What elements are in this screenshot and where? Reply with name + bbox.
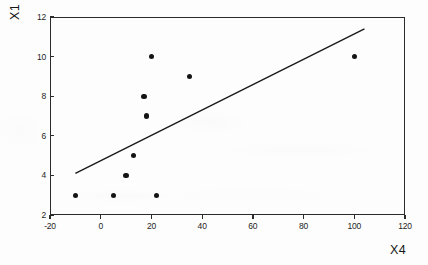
x-axis-tick <box>404 215 405 219</box>
x-axis-tick-label: 60 <box>238 221 268 231</box>
x-axis-tick <box>252 215 253 219</box>
x-axis-tick-label: 120 <box>390 221 420 231</box>
y-axis-title: X1 <box>8 4 22 20</box>
data-point <box>149 54 154 59</box>
x-axis-tick-label: 80 <box>289 221 319 231</box>
x-axis-tick <box>354 215 355 219</box>
data-point <box>111 193 116 198</box>
data-point <box>352 54 357 59</box>
x-axis-tick <box>49 215 50 219</box>
data-point <box>131 153 136 158</box>
y-axis-tick-label: 12 <box>28 12 46 22</box>
data-point <box>154 193 159 198</box>
x-axis-tick-label: 0 <box>86 221 116 231</box>
plot-area <box>50 17 405 215</box>
y-axis-tick-label: 2 <box>28 210 46 220</box>
x-axis-tick-label: -20 <box>35 221 65 231</box>
data-point <box>141 94 146 99</box>
data-point <box>73 193 78 198</box>
x-axis-tick <box>202 215 203 219</box>
y-axis-tick-label: 6 <box>28 131 46 141</box>
x-axis-tick-label: 20 <box>136 221 166 231</box>
y-axis-tick-label: 10 <box>28 52 46 62</box>
y-axis-tick-label: 8 <box>28 91 46 101</box>
x-axis-tick <box>303 215 304 219</box>
scatterplot-screenshot: X1 X4 24681012 -20020406080100120 <box>0 0 428 265</box>
data-point <box>123 173 128 178</box>
x-axis-tick <box>151 215 152 219</box>
data-points-layer <box>50 17 405 215</box>
y-axis-tick-label: 4 <box>28 170 46 180</box>
x-axis-title: X4 <box>390 243 406 257</box>
x-axis-tick-label: 100 <box>339 221 369 231</box>
x-axis-tick <box>100 215 101 219</box>
data-point <box>187 74 192 79</box>
data-point <box>144 113 149 118</box>
x-axis-tick-label: 40 <box>187 221 217 231</box>
